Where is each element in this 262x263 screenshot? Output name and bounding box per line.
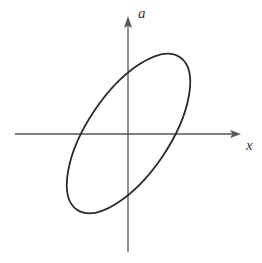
ellipse-diagram: a x xyxy=(0,0,262,263)
x-axis-label: x xyxy=(245,137,253,153)
figure-background xyxy=(0,0,262,263)
figure-canvas: a x xyxy=(0,0,262,263)
a-axis-label: a xyxy=(138,5,146,21)
